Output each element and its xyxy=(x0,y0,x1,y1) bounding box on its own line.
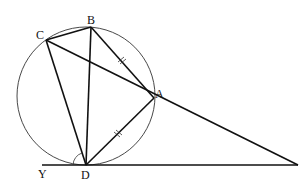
point-label-b: B xyxy=(87,14,95,26)
point-label-d: D xyxy=(81,169,90,181)
line-bd xyxy=(86,27,91,165)
diagram-canvas xyxy=(0,0,306,194)
point-label-c: C xyxy=(36,29,44,41)
angle-arc-d xyxy=(73,153,82,165)
line-cd xyxy=(46,40,86,165)
point-label-y: Y xyxy=(38,168,47,180)
line-cx xyxy=(46,40,298,165)
line-ad xyxy=(86,98,154,165)
geometry-diagram: B C A D Y X X X X X X X X X X X X X X X … xyxy=(0,0,306,194)
point-label-a: A xyxy=(155,88,164,100)
